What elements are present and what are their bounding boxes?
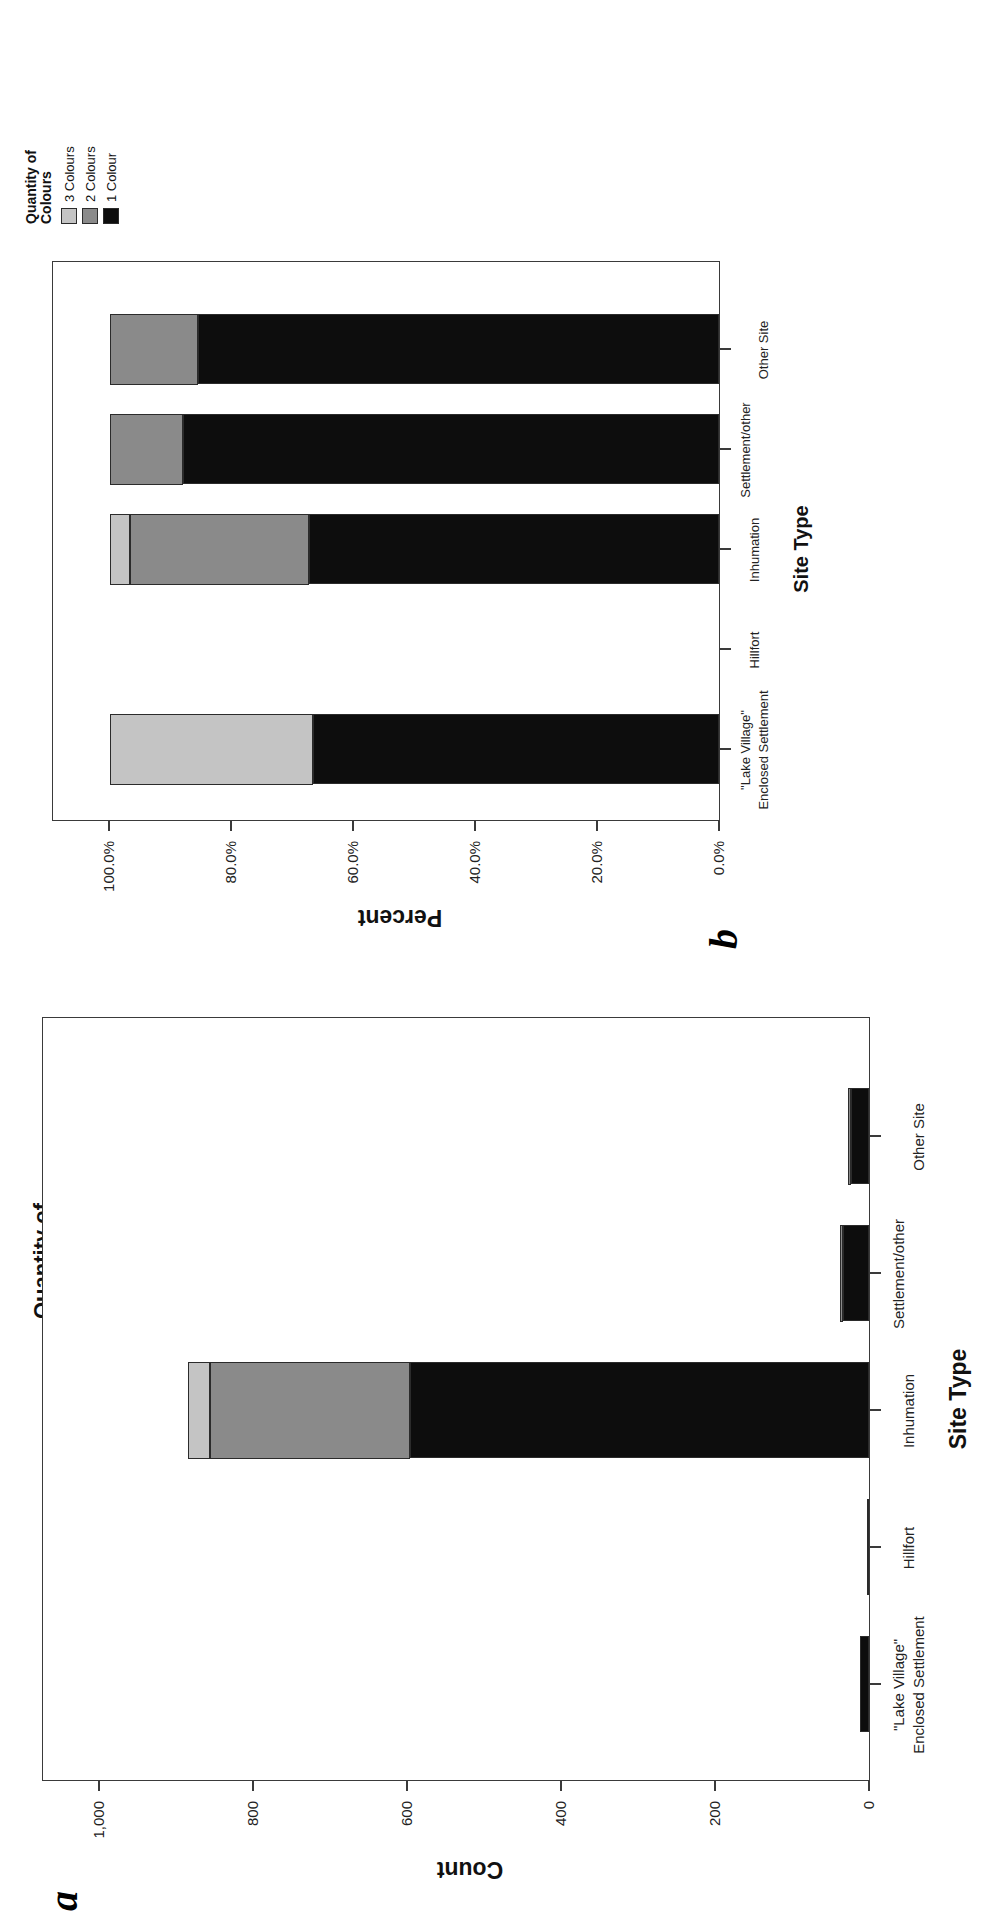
panel-b-xtickmark-4 (720, 449, 731, 451)
panel-b-legend-item-3colours[interactable]: 3 Colours (61, 146, 77, 224)
panel-b-bar-lake-village[interactable] (110, 714, 719, 784)
panel-b-ytickmark-60 (352, 821, 354, 831)
panel-b-xtick-inhumation: Inhumation (747, 518, 762, 582)
panel-a-ytickmark-400 (560, 1781, 562, 1791)
panel-a-xtickmark-3 (870, 1410, 881, 1412)
panel-b-ytick-0: 0.0% (710, 841, 727, 875)
panel-a-ytickmark-1000 (98, 1781, 100, 1791)
panel-b-ytickmark-80 (230, 821, 232, 831)
panel-b-xtick-enclosed-settlement: Enclosed Settlement (756, 690, 771, 809)
panel-b-x-axis-title: Site Type (790, 505, 813, 592)
panel-a-seg-1colour-other-site (851, 1088, 869, 1184)
panel-a-xtick-settlement-other: Settlement/other (890, 1219, 907, 1329)
panel-a-xtick-inhumation: Inhumation (900, 1374, 917, 1448)
figure-root: a Quantity of Colours 3 Colours 2 Colour… (0, 0, 994, 1929)
panel-a-ytick-0: 0 (860, 1801, 877, 1809)
panel-a-ytickmark-200 (714, 1781, 716, 1791)
panel-b-seg-1colour-other-site (198, 314, 719, 384)
panel-b-seg-1colour-lake-village (313, 714, 719, 784)
panel-b-ytickmark-40 (474, 821, 476, 831)
panel-a-xtickmark-1 (870, 1684, 881, 1686)
panel-b-legend-item-2colours[interactable]: 2 Colours (82, 146, 98, 224)
panel-b-letter: b (700, 929, 747, 949)
panel-a-x-axis-title: Site Type (945, 1349, 972, 1450)
panel-b-ytickmark-20 (596, 821, 598, 831)
panel-b-y-axis-title: Percent (358, 904, 442, 931)
panel-b-legend-label-1colour: 1 Colour (104, 153, 119, 202)
panel-b-seg-1colour-inhumation (309, 514, 719, 584)
panel-a-bar-other-site[interactable] (848, 1088, 869, 1184)
panel-b-legend: Quantity of Colours 3 Colours 2 Colours … (24, 146, 119, 224)
panel-b-ytickmark-0 (718, 821, 720, 831)
panel-a-ytick-400: 400 (552, 1801, 569, 1826)
panel-b-seg-1colour-settlement-other (183, 414, 719, 484)
panel-b-ytick-100: 100.0% (100, 841, 117, 892)
panel-a-seg-1colour-hillfort (867, 1499, 869, 1595)
panel-a-ytickmark-800 (252, 1781, 254, 1791)
panel-a-xtick-hillfort: Hillfort (900, 1527, 917, 1570)
panel-b-xtickmark-2 (720, 649, 731, 651)
panel-b-seg-2colours-settlement-other (110, 414, 183, 485)
panel-b-xtick-lake-village: "Lake Village" (738, 710, 753, 790)
panel-a-xtickmark-2 (870, 1547, 881, 1549)
panel-b-plot-area (52, 261, 720, 821)
panel-b-seg-2colours-inhumation (130, 514, 308, 585)
panel-a-seg-1colour-settlement-other (843, 1225, 869, 1321)
panel-b-seg-2colours-other-site (110, 314, 198, 385)
panel-b-legend-title: Quantity of Colours (24, 146, 53, 224)
legend-swatch-2-colours-icon (82, 208, 98, 224)
panel-a-ytick-1000: 1,000 (90, 1801, 107, 1839)
panel-b-ytick-80: 80.0% (222, 841, 239, 884)
panel-b-seg-3colours-inhumation (110, 514, 130, 585)
panel-a-plot-area (42, 1017, 870, 1781)
panel-a-seg-2colours-inhumation (210, 1362, 410, 1459)
panel-b-legend-label-3colours: 3 Colours (62, 146, 77, 202)
panel-a-bar-inhumation[interactable] (188, 1362, 869, 1458)
panel-b-bar-inhumation[interactable] (110, 514, 719, 584)
panel-a-xtick-other-site: Other Site (910, 1103, 927, 1171)
panel-a-ytickmark-600 (406, 1781, 408, 1791)
figure-page: a Quantity of Colours 3 Colours 2 Colour… (0, 0, 994, 1929)
panel-b-ytick-20: 20.0% (588, 841, 605, 884)
panel-b-xtick-hillfort: Hillfort (747, 632, 762, 669)
panel-a-ytick-200: 200 (706, 1801, 723, 1826)
panel-a-ytick-800: 800 (244, 1801, 261, 1826)
panel-b-legend-label-2colours: 2 Colours (83, 146, 98, 202)
panel-b-xtick-settlement-other: Settlement/other (738, 402, 753, 497)
panel-b-xtick-other-site: Other Site (756, 321, 771, 380)
panel-a-xtick-enclosed-settlement: Enclosed Settlement (910, 1616, 927, 1754)
panel-a-seg-1colour-inhumation (410, 1362, 869, 1458)
panel-b-seg-3colours-lake-village (110, 714, 313, 785)
panel-a-bar-lake-village[interactable] (860, 1636, 869, 1732)
panel-a-seg-1colour-lake-village (860, 1636, 869, 1732)
panel-b-xtickmark-1 (720, 749, 731, 751)
panel-a: a Quantity of Colours 3 Colours 2 Colour… (0, 969, 994, 1929)
panel-b: b Quantity of Colours 3 Colours 2 Colour… (0, 0, 994, 969)
legend-swatch-1-colour-icon (103, 208, 119, 224)
panel-b-ytick-40: 40.0% (466, 841, 483, 884)
panel-b-xtickmark-3 (720, 549, 731, 551)
panel-b-xtickmark-5 (720, 349, 731, 351)
panel-a-xtick-lake-village: "Lake Village" (890, 1639, 907, 1731)
panel-a-ytick-600: 600 (398, 1801, 415, 1826)
panel-a-letter: a (40, 1891, 87, 1911)
panel-a-xtickmark-4 (870, 1273, 881, 1275)
panel-a-ytickmark-0 (868, 1781, 870, 1791)
panel-b-bar-other-site[interactable] (110, 314, 719, 384)
panel-b-ytick-60: 60.0% (344, 841, 361, 884)
panel-a-bar-settlement-other[interactable] (840, 1225, 869, 1321)
panel-b-bar-settlement-other[interactable] (110, 414, 719, 484)
panel-b-legend-item-1colour[interactable]: 1 Colour (103, 146, 119, 224)
panel-a-xtickmark-5 (870, 1136, 881, 1138)
legend-swatch-3-colours-icon (61, 208, 77, 224)
panel-a-bar-hillfort[interactable] (868, 1499, 869, 1595)
panel-a-seg-3colours-inhumation (188, 1362, 210, 1459)
panel-b-ytickmark-100 (108, 821, 110, 831)
panel-a-y-axis-title: Count (437, 1856, 503, 1883)
